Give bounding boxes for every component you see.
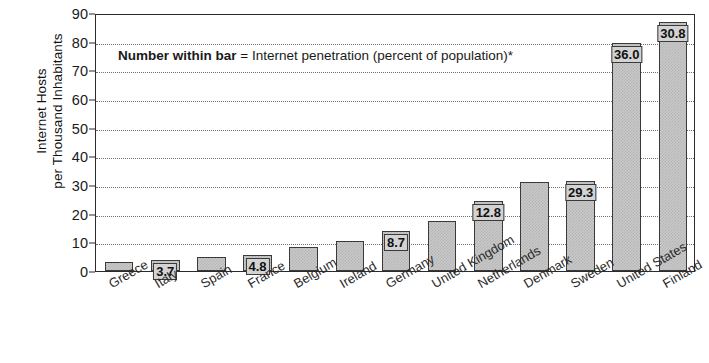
y-axis-tick-labels: 0102030405060708090 xyxy=(0,0,95,363)
y-tick-label: 50 xyxy=(0,121,88,137)
y-tick-mark xyxy=(89,272,95,273)
y-tick-mark xyxy=(89,14,95,15)
y-tick-label: 60 xyxy=(0,92,88,108)
y-tick-label: 30 xyxy=(0,178,88,194)
y-tick-label: 70 xyxy=(0,63,88,79)
y-tick-mark xyxy=(89,128,95,129)
gridline xyxy=(96,216,694,217)
bar-value-label: 29.3 xyxy=(565,184,596,201)
y-tick-label: 10 xyxy=(0,235,88,251)
y-tick-mark xyxy=(89,157,95,158)
y-tick-label: 0 xyxy=(0,264,88,280)
gridline xyxy=(96,72,694,73)
gridline xyxy=(96,187,694,188)
annotation-bold-text: Number within bar xyxy=(118,48,237,63)
y-tick-label: 90 xyxy=(0,6,88,22)
gridline xyxy=(96,130,694,131)
y-tick-mark xyxy=(89,243,95,244)
chart-annotation: Number within bar = Internet penetration… xyxy=(118,48,513,63)
bar-value-label: 8.7 xyxy=(384,234,408,251)
y-tick-label: 80 xyxy=(0,35,88,51)
y-tick-mark xyxy=(89,100,95,101)
gridline xyxy=(96,158,694,159)
annotation-rest-text: = Internet penetration (percent of popul… xyxy=(237,48,514,63)
y-tick-mark xyxy=(89,186,95,187)
chart-figure: Internet Hosts per Thousand Inhabitants … xyxy=(0,0,709,363)
bar xyxy=(612,43,641,271)
bar-value-label: 36.0 xyxy=(611,46,642,63)
bar-value-label: 12.8 xyxy=(473,204,504,221)
bar-value-label: 30.8 xyxy=(657,25,688,42)
y-tick-label: 20 xyxy=(0,207,88,223)
y-tick-mark xyxy=(89,71,95,72)
bar xyxy=(659,22,688,271)
gridline xyxy=(96,101,694,102)
y-tick-mark xyxy=(89,214,95,215)
y-tick-label: 40 xyxy=(0,149,88,165)
gridline xyxy=(96,44,694,45)
y-tick-mark xyxy=(89,42,95,43)
